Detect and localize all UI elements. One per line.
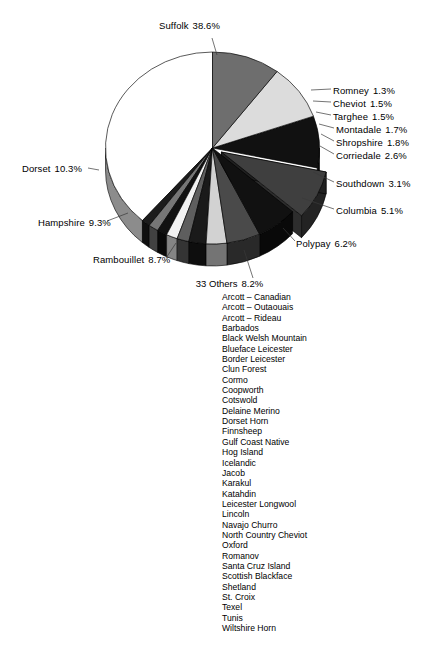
others-title: 33 Others8.2% <box>0 278 443 290</box>
slice-label-romney: Romney1.3% <box>333 85 395 96</box>
others-breed-item: Navajo Churro <box>222 520 443 530</box>
slice-label-polypay: Polypay6.2% <box>296 238 357 249</box>
slice-name-suffolk: Suffolk <box>159 20 189 31</box>
slice-label-southdown: Southdown3.1% <box>336 178 411 189</box>
slice-pct-romney: 1.3% <box>373 85 395 96</box>
slice-pct-targhee: 1.5% <box>372 111 394 122</box>
others-breed-item: Cormo <box>222 375 443 385</box>
others-breed-item: Coopworth <box>222 385 443 395</box>
others-breed-item: Scottish Blackface <box>222 571 443 581</box>
leader-line-montadale <box>319 124 334 128</box>
slice-label-dorset: Dorset10.3% <box>22 163 82 174</box>
slice-name-dorset: Dorset <box>22 163 51 174</box>
others-breed-item: Hog Island <box>222 447 443 457</box>
others-breed-item: Tunis <box>222 613 443 623</box>
slice-name-rambouillet: Rambouillet <box>93 254 144 265</box>
others-breed-item: Jacob <box>222 468 443 478</box>
slice-pct-cheviot: 1.5% <box>370 98 392 109</box>
slice-name-hampshire: Hampshire <box>38 217 85 228</box>
slice-label-suffolk: Suffolk38.6% <box>159 20 220 31</box>
others-breed-item: Blueface Leicester <box>222 344 443 354</box>
slice-label-corriedale: Corriedale2.6% <box>336 150 407 161</box>
slice-label-hampshire: Hampshire9.3% <box>38 217 111 228</box>
others-title-pct: 8.2% <box>242 278 264 289</box>
others-breed-item: Finnsheep <box>222 426 443 436</box>
slice-name-polypay: Polypay <box>296 238 331 249</box>
slice-name-romney: Romney <box>333 85 369 96</box>
slice-label-rambouillet: Rambouillet8.7% <box>93 254 170 265</box>
others-breed-item: Barbados <box>222 323 443 333</box>
leader-line-corriedale <box>320 146 334 154</box>
others-breed-list: Arcott – CanadianArcott – OutaouaisArcot… <box>0 292 443 633</box>
pie-slice-wall-shropshire <box>177 239 189 264</box>
others-breed-item: Arcott – Canadian <box>222 292 443 302</box>
others-breed-item: Arcott – Outaouais <box>222 302 443 312</box>
others-breed-item: Icelandic <box>222 458 443 468</box>
slice-pct-polypay: 6.2% <box>335 238 357 249</box>
slice-label-shropshire: Shropshire1.8% <box>336 137 409 148</box>
others-breakdown: 33 Others8.2% Arcott – CanadianArcott – … <box>0 278 443 633</box>
others-breed-item: Arcott – Rideau <box>222 313 443 323</box>
others-title-text: 33 Others <box>196 278 238 289</box>
others-breed-item: Karakul <box>222 478 443 488</box>
pie-slice-wall-southdown <box>206 243 227 266</box>
slice-name-southdown: Southdown <box>336 178 384 189</box>
slice-pct-dorset: 10.3% <box>55 163 82 174</box>
others-breed-item: Lincoln <box>222 509 443 519</box>
leader-line-shropshire <box>321 134 334 141</box>
others-breed-item: Cotswold <box>222 395 443 405</box>
slice-label-cheviot: Cheviot1.5% <box>333 98 392 109</box>
others-breed-item: Oxford <box>222 540 443 550</box>
leader-line-romney <box>311 89 331 90</box>
slice-pct-rambouillet: 8.7% <box>148 254 170 265</box>
slice-name-shropshire: Shropshire <box>336 137 383 148</box>
others-breed-item: Black Welsh Mountain <box>222 333 443 343</box>
slice-name-corriedale: Corriedale <box>336 150 381 161</box>
others-breed-item: Santa Cruz Island <box>222 561 443 571</box>
others-breed-item: North Country Cheviot <box>222 530 443 540</box>
others-breed-item: Leicester Longwool <box>222 499 443 509</box>
pie-chart-figure: Suffolk38.6% Romney1.3% Cheviot1.5% Targ… <box>0 0 443 656</box>
leader-line-targhee <box>316 112 331 115</box>
others-breed-item: Gulf Coast Native <box>222 437 443 447</box>
others-breed-item: St. Croix <box>222 592 443 602</box>
others-breed-item: Dorset Horn <box>222 416 443 426</box>
others-breed-item: Clun Forest <box>222 364 443 374</box>
others-breed-item: Delaine Merino <box>222 406 443 416</box>
others-breed-item: Border Leicester <box>222 354 443 364</box>
slice-name-targhee: Targhee <box>333 111 368 122</box>
slice-pct-columbia: 5.1% <box>381 205 403 216</box>
leader-line-cheviot <box>313 101 331 102</box>
slice-name-montadale: Montadale <box>336 124 381 135</box>
leader-line-dorset <box>88 168 99 170</box>
slice-pct-southdown: 3.1% <box>388 178 410 189</box>
others-breed-item: Katahdin <box>222 489 443 499</box>
others-breed-item: Wiltshire Horn <box>222 623 443 633</box>
pie-slices-group <box>105 52 326 266</box>
slice-pct-montadale: 1.7% <box>385 124 407 135</box>
others-breed-item: Texel <box>222 602 443 612</box>
slice-name-columbia: Columbia <box>336 205 377 216</box>
slice-label-columbia: Columbia5.1% <box>336 205 403 216</box>
slice-pct-hampshire: 9.3% <box>89 217 111 228</box>
slice-pct-suffolk: 38.6% <box>193 20 220 31</box>
others-breed-item: Shetland <box>222 582 443 592</box>
slice-pct-shropshire: 1.8% <box>387 137 409 148</box>
slice-name-cheviot: Cheviot <box>333 98 366 109</box>
pie-slice-wall-corriedale <box>189 242 206 266</box>
slice-label-montadale: Montadale1.7% <box>336 124 407 135</box>
slice-label-targhee: Targhee1.5% <box>333 111 394 122</box>
others-breed-item: Romanov <box>222 551 443 561</box>
slice-pct-corriedale: 2.6% <box>385 150 407 161</box>
